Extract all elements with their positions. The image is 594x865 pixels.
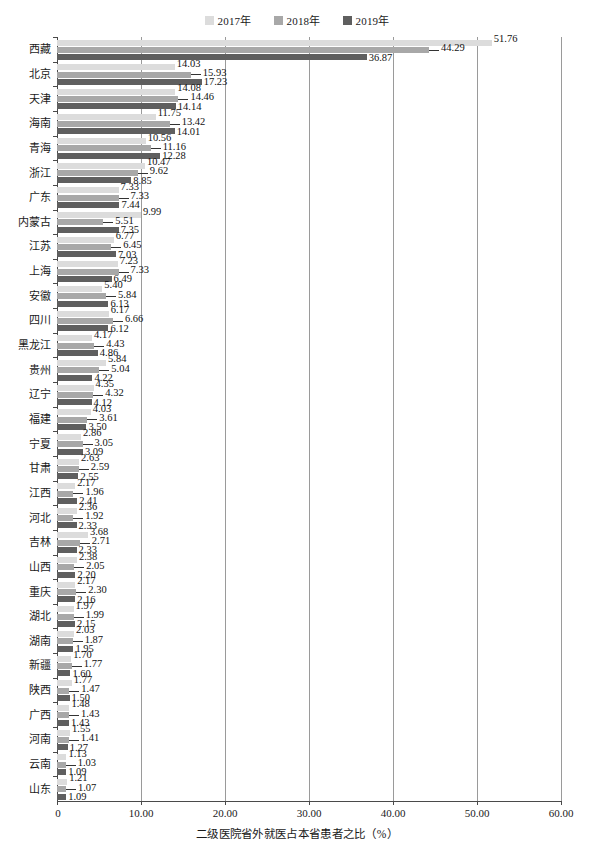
y-axis-tick — [53, 456, 57, 457]
x-axis-tick-label: 0 — [55, 807, 61, 819]
legend-entry: 2017年 — [205, 12, 252, 28]
leader-line — [111, 247, 121, 248]
bar-value-label: 9.62 — [150, 166, 168, 177]
category-label: 天津 — [29, 93, 51, 104]
y-axis-tick — [53, 776, 57, 777]
bar-rows: 西藏51.7644.2936.87北京14.0315.9317.23天津14.0… — [57, 37, 561, 801]
chart-row: 黑龙江4.174.434.86 — [57, 333, 561, 358]
bar-2019 — [57, 596, 75, 602]
category-label: 重庆 — [29, 586, 51, 597]
y-axis-tick — [53, 37, 57, 38]
bar-2017 — [57, 40, 492, 46]
bar-2018 — [57, 195, 119, 201]
bar-2017 — [57, 656, 71, 662]
bar-2017 — [57, 286, 102, 292]
x-axis-tick-mark — [225, 801, 226, 805]
chart-row: 广东7.337.337.44 — [57, 185, 561, 210]
bar-2017 — [57, 459, 79, 465]
chart-row: 重庆2.172.302.16 — [57, 579, 561, 604]
chart-row: 福建4.033.613.50 — [57, 407, 561, 432]
bar-2017 — [57, 557, 77, 563]
bar-2018 — [57, 638, 73, 644]
chart-legend: 2017年2018年2019年 — [0, 12, 594, 28]
bar-2018 — [57, 219, 103, 225]
y-axis-tick — [53, 628, 57, 629]
legend-entry: 2018年 — [274, 12, 321, 28]
chart-row: 西藏51.7644.2936.87 — [57, 37, 561, 62]
bar-2019 — [57, 744, 68, 750]
leader-line — [170, 124, 180, 125]
bar-2018 — [57, 72, 191, 78]
bar-2019 — [57, 54, 367, 60]
leader-line — [69, 740, 79, 741]
category-label: 广西 — [29, 709, 51, 720]
category-label: 海南 — [29, 118, 51, 129]
legend-entry: 2019年 — [343, 12, 390, 28]
bar-2018 — [57, 170, 138, 176]
category-label: 湖南 — [29, 635, 51, 646]
chart-row: 山东1.211.071.09 — [57, 776, 561, 801]
bar-2018 — [57, 466, 79, 472]
category-label: 贵州 — [29, 364, 51, 375]
y-axis-tick — [53, 505, 57, 506]
bar-2018 — [57, 318, 113, 324]
category-label: 四川 — [29, 315, 51, 326]
category-label: 内蒙古 — [18, 216, 51, 227]
leader-line — [113, 321, 123, 322]
bar-2019 — [57, 670, 70, 676]
bar-2018 — [57, 293, 106, 299]
legend-swatch-icon — [274, 16, 283, 25]
bar-2019 — [57, 572, 75, 578]
bar-2017 — [57, 187, 119, 193]
bar-2019 — [57, 498, 77, 504]
x-axis-tick-label: 60.00 — [549, 807, 574, 819]
bar-2017 — [57, 138, 146, 144]
y-axis-tick — [53, 702, 57, 703]
chart-row: 广西1.481.431.43 — [57, 702, 561, 727]
bar-2017 — [57, 311, 109, 317]
bar-2017 — [57, 261, 118, 267]
bar-2019 — [57, 646, 73, 652]
category-label: 安徽 — [29, 290, 51, 301]
bar-2019 — [57, 424, 86, 430]
bar-2017 — [57, 730, 70, 736]
category-label: 宁夏 — [29, 438, 51, 449]
bar-2018 — [57, 663, 72, 669]
y-axis-tick — [53, 431, 57, 432]
chart-row: 吉林3.682.712.33 — [57, 530, 561, 555]
category-label: 浙江 — [29, 167, 51, 178]
chart-row: 河北2.361.922.33 — [57, 505, 561, 530]
bar-value-label: 11.75 — [158, 108, 181, 119]
bar-2017 — [57, 89, 175, 95]
category-label: 辽宁 — [29, 389, 51, 400]
bar-2018 — [57, 786, 66, 792]
bar-value-label: 14.03 — [177, 59, 201, 70]
legend-swatch-icon — [205, 16, 214, 25]
y-axis-tick — [53, 111, 57, 112]
bar-2019 — [57, 473, 78, 479]
category-label: 青海 — [29, 142, 51, 153]
bar-2019 — [57, 621, 75, 627]
y-axis-tick — [53, 357, 57, 358]
bar-2018 — [57, 96, 178, 102]
bar-2018 — [57, 589, 76, 595]
bar-2019 — [57, 399, 92, 405]
category-label: 广东 — [29, 192, 51, 203]
leader-line — [178, 99, 188, 100]
bar-2017 — [57, 606, 74, 612]
category-label: 甘肃 — [29, 463, 51, 474]
chart-row: 宁夏2.863.053.09 — [57, 431, 561, 456]
x-axis-tick-label: 20.00 — [213, 807, 238, 819]
bar-2017 — [57, 434, 81, 440]
bar-2018 — [57, 441, 83, 447]
bar-2017 — [57, 582, 75, 588]
chart-row: 贵州5.845.044.22 — [57, 357, 561, 382]
category-label: 山东 — [29, 783, 51, 794]
y-axis-tick — [53, 752, 57, 753]
leader-line — [93, 395, 103, 396]
bar-2017 — [57, 163, 145, 169]
category-label: 湖北 — [29, 611, 51, 622]
category-label: 吉林 — [29, 537, 51, 548]
bar-2019 — [57, 202, 119, 208]
bar-2017 — [57, 483, 75, 489]
